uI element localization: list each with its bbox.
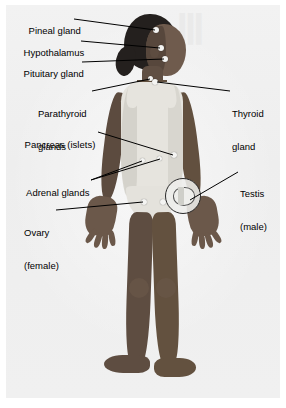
label-testis-male: Testis (male): [240, 166, 267, 254]
adrenal-gland-marker-left: [140, 158, 145, 163]
right-knee: [156, 278, 176, 298]
testis-band: [178, 187, 184, 205]
hypothalamus-marker: [158, 45, 164, 51]
adrenal-gland-marker-right: [157, 156, 162, 161]
label-pancreas-islets: Pancreas (islets): [14, 128, 95, 161]
right-foot: [154, 358, 196, 377]
pineal-gland-marker: [153, 27, 159, 33]
ovary-marker-left: [141, 199, 147, 205]
label-ovary-female: Ovary (female): [24, 205, 59, 293]
finger: [108, 230, 117, 247]
left-foot: [104, 355, 150, 373]
pituitary-gland-marker: [162, 56, 168, 62]
pancreas-islets-marker: [171, 152, 177, 158]
label-thyroid-gland: Thyroid gland: [232, 86, 264, 174]
left-knee: [129, 278, 149, 298]
testis-illustration: [173, 187, 195, 206]
endocrine-system-figure: Ⅲ: [0, 0, 286, 408]
testis-inset-circle: [165, 178, 201, 214]
thyroid-gland-marker: [152, 79, 158, 85]
hair-bun: [113, 44, 138, 77]
